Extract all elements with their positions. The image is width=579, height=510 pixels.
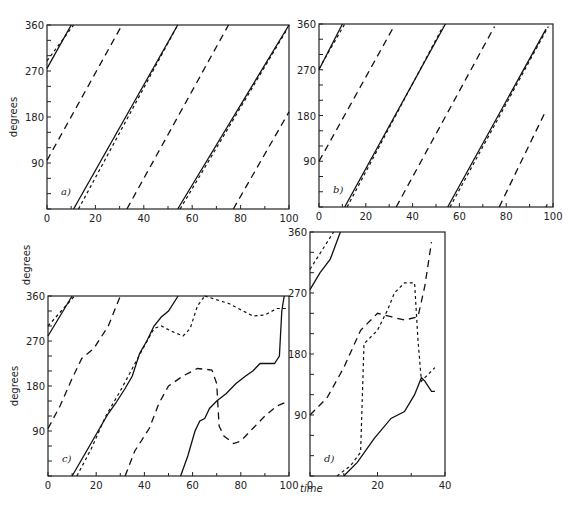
series-solid bbox=[74, 25, 178, 209]
x-tick-label: 20 bbox=[89, 213, 102, 224]
panel-tag: c) bbox=[62, 453, 72, 464]
y-tick-label: 90 bbox=[303, 156, 316, 167]
y-tick-label: 270 bbox=[26, 336, 45, 347]
x-tick-label: 0 bbox=[44, 213, 50, 224]
y-tick-label: 180 bbox=[288, 349, 307, 360]
series-dotted bbox=[310, 232, 334, 269]
series-solid bbox=[72, 296, 178, 476]
panel-a: 02040608010090180270360a)degrees bbox=[8, 20, 299, 224]
x-tick-label: 40 bbox=[406, 211, 419, 222]
y-tick-label: 270 bbox=[288, 288, 307, 299]
y-tick-label: 360 bbox=[288, 227, 307, 238]
panel-d: 0204090180270360d) bbox=[288, 227, 451, 491]
series-dotted bbox=[546, 202, 548, 207]
y-tick-label: 180 bbox=[297, 111, 316, 122]
series-dotted bbox=[47, 25, 74, 61]
series-solid bbox=[47, 25, 71, 68]
y-tick-label: 270 bbox=[297, 65, 316, 76]
panel-tag: a) bbox=[61, 186, 71, 197]
plot-frame bbox=[319, 24, 553, 207]
x-tick-label: 60 bbox=[186, 480, 199, 491]
series-dashed bbox=[125, 369, 289, 477]
series-dashed bbox=[499, 110, 546, 207]
y-tick-label: 270 bbox=[25, 66, 44, 77]
x-tick-label: 40 bbox=[138, 480, 151, 491]
y-tick-label: 360 bbox=[297, 19, 316, 30]
series-dotted bbox=[205, 296, 289, 316]
stray-ylabel: degrees bbox=[21, 245, 32, 285]
x-tick-label: 100 bbox=[279, 480, 298, 491]
y-axis-title: degrees bbox=[9, 366, 20, 406]
series-dotted bbox=[450, 27, 548, 208]
series-dashed bbox=[233, 112, 289, 209]
panel-c: 02040608010090180270360c)degrees bbox=[9, 291, 299, 491]
y-tick-label: 90 bbox=[294, 410, 307, 421]
x-tick-label: 80 bbox=[234, 480, 247, 491]
x-tick-label: 20 bbox=[359, 211, 372, 222]
series-dotted bbox=[180, 30, 287, 209]
y-tick-label: 180 bbox=[25, 112, 44, 123]
y-tick-label: 90 bbox=[31, 158, 44, 169]
series-dotted bbox=[319, 24, 345, 69]
series-dashed bbox=[127, 25, 229, 209]
x-tick-label: 0 bbox=[316, 211, 322, 222]
x-tick-label: 100 bbox=[543, 211, 562, 222]
series-solid bbox=[178, 25, 289, 209]
series-solid bbox=[181, 296, 285, 476]
series-dashed bbox=[310, 242, 432, 415]
y-tick-label: 360 bbox=[26, 291, 45, 302]
x-tick-label: 60 bbox=[453, 211, 466, 222]
panel-tag: b) bbox=[333, 184, 343, 195]
x-tick-label: 80 bbox=[500, 211, 513, 222]
y-tick-label: 90 bbox=[32, 426, 45, 437]
series-solid bbox=[448, 29, 546, 207]
panel-b: 02040608010090180270360b) bbox=[297, 19, 563, 222]
series-solid bbox=[310, 232, 340, 290]
y-axis-title: degrees bbox=[8, 97, 19, 137]
series-dotted bbox=[77, 296, 205, 476]
x-tick-label: 60 bbox=[186, 213, 199, 224]
y-tick-label: 360 bbox=[25, 20, 44, 31]
x-tick-label: 20 bbox=[371, 480, 384, 491]
series-solid bbox=[344, 378, 435, 476]
plot-frame bbox=[47, 25, 289, 209]
x-axis-title: time bbox=[300, 483, 323, 494]
plot-frame bbox=[310, 232, 445, 476]
x-tick-label: 80 bbox=[234, 213, 247, 224]
x-tick-label: 0 bbox=[45, 480, 51, 491]
y-tick-label: 180 bbox=[26, 381, 45, 392]
x-tick-label: 20 bbox=[90, 480, 103, 491]
x-tick-label: 40 bbox=[439, 480, 452, 491]
x-tick-label: 100 bbox=[279, 213, 298, 224]
panel-tag: d) bbox=[324, 453, 334, 464]
series-dashed bbox=[396, 27, 494, 208]
figure-canvas: degrees 02040608010090180270360a)degrees… bbox=[0, 0, 579, 510]
x-tick-label: 40 bbox=[137, 213, 150, 224]
